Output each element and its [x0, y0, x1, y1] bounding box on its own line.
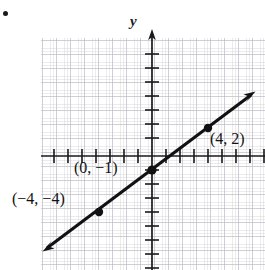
point-label-minus4-minus4: (−4, −4)	[12, 191, 65, 207]
point-0-minus1	[147, 165, 156, 174]
graph-figure: y (0, −1) (−4, −4) (4, 2)	[0, 0, 265, 270]
y-axis	[145, 29, 159, 270]
point-label-4-2: (4, 2)	[210, 131, 245, 147]
y-axis-label: y	[130, 14, 137, 29]
point-minus4-minus4	[95, 208, 103, 216]
point-label-0-minus1: (0, −1)	[74, 160, 118, 176]
